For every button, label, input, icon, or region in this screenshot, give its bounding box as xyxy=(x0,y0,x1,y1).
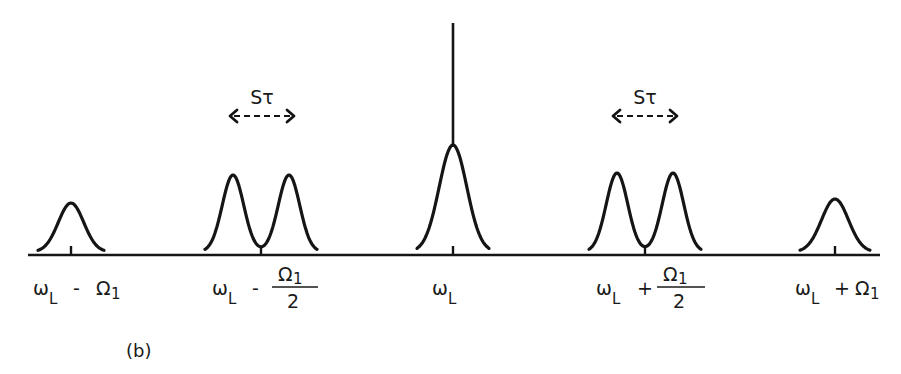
peak-curve xyxy=(38,203,104,250)
label-omega-minus-omega1: ω L - Ω 1 xyxy=(33,277,121,308)
omega-symbol: ω xyxy=(795,277,811,299)
peak-right-sideband xyxy=(800,199,870,255)
peak-central xyxy=(417,23,489,255)
label-omega-plus-omega1: ω L + Ω 1 xyxy=(795,277,880,308)
omega-one-symbol: Ω xyxy=(96,277,111,299)
panel-label: (b) xyxy=(126,340,151,361)
omega-symbol: ω xyxy=(212,277,228,299)
plus-sign: + xyxy=(637,277,653,299)
peak-right-half-doublet xyxy=(589,173,701,255)
label-omega-minus-half-omega1: ω L - Ω 1 2 xyxy=(212,263,318,312)
fraction-denominator: 2 xyxy=(287,290,299,312)
minus-sign: - xyxy=(73,277,80,299)
subscript-1: 1 xyxy=(111,285,121,303)
omega-symbol: ω xyxy=(596,277,612,299)
label-omega-plus-half-omega1: ω L + Ω 1 2 xyxy=(596,263,705,312)
fraction-numerator: Ω xyxy=(278,263,293,285)
peak-left-sideband xyxy=(38,203,104,255)
subscript-1: 1 xyxy=(678,270,688,288)
splitting-label: Sτ xyxy=(250,86,274,108)
splitting-arrow: Sτ xyxy=(230,86,294,122)
splitting-arrow: Sτ xyxy=(613,86,677,122)
fraction-numerator: Ω xyxy=(663,263,678,285)
subscript-L: L xyxy=(612,290,621,308)
fraction-denominator: 2 xyxy=(673,290,685,312)
subscript-L: L xyxy=(49,290,58,308)
subscript-1: 1 xyxy=(293,270,303,288)
subscript-L: L xyxy=(811,290,820,308)
spectral-peaks xyxy=(38,23,870,255)
splitting-label: Sτ xyxy=(633,86,657,108)
peak-curve xyxy=(205,175,317,249)
subscript-1: 1 xyxy=(870,285,880,303)
subscript-L: L xyxy=(448,290,457,308)
peak-curve xyxy=(417,145,489,248)
minus-sign: - xyxy=(252,277,259,299)
peak-curve xyxy=(589,173,701,249)
spectrum-diagram: SτSτ ω L - Ω 1 ω L - Ω 1 2 ω L ω L + Ω 1… xyxy=(0,0,901,374)
omega-symbol: ω xyxy=(33,277,49,299)
peak-curve xyxy=(800,199,870,250)
omega-one-symbol: Ω xyxy=(855,277,870,299)
label-omega-L: ω L xyxy=(432,277,457,308)
peak-left-half-doublet xyxy=(205,175,317,255)
subscript-L: L xyxy=(228,290,237,308)
plus-sign: + xyxy=(834,277,850,299)
omega-symbol: ω xyxy=(432,277,448,299)
